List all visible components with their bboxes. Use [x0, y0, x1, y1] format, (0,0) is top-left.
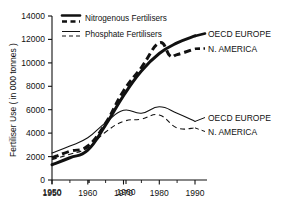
annotation-phosphate-n-america: N. AMERICA: [208, 127, 257, 137]
x-tick-label-1980: 1980: [150, 188, 169, 198]
y-tick-label-2000: 2000: [26, 152, 45, 162]
annotation-nitrogenous-n-america: N. AMERICA: [208, 44, 257, 54]
x-tick-label-1990: 1990: [186, 188, 205, 198]
chart-screenshot: Fertiliser Use ( in 000 tonnes ) 0 2000 …: [0, 0, 292, 207]
x-tick-label-1960b: 1960: [78, 188, 97, 198]
legend-label-phosphate: Phosphate Fertilisers: [85, 30, 162, 39]
annotation-phosphate-oecd-europe: OECD EUROPE: [208, 113, 271, 123]
y-tick-label-12000: 12000: [21, 34, 45, 44]
y-tick-label-6000: 6000: [26, 105, 45, 115]
x-tick-label-1970: 1970: [114, 188, 133, 198]
y-tick-label-4000: 4000: [26, 128, 45, 138]
annotation-nitrogenous-oecd-europe: OECD EUROPE: [208, 29, 271, 39]
fertiliser-use-line-chart: Fertiliser Use ( in 000 tonnes ) 0 2000 …: [0, 0, 292, 207]
y-tick-label-14000: 14000: [21, 11, 45, 21]
x-tick-label-1950b: 1950: [43, 188, 62, 198]
y-axis-title: Fertiliser Use ( in 000 tonnes ): [8, 43, 18, 157]
y-tick-label-10000: 10000: [21, 58, 45, 68]
y-tick-label-0: 0: [40, 175, 45, 185]
y-tick-label-8000: 8000: [26, 81, 45, 91]
legend-label-nitrogenous: Nitrogenous Fertilisers: [85, 14, 167, 23]
